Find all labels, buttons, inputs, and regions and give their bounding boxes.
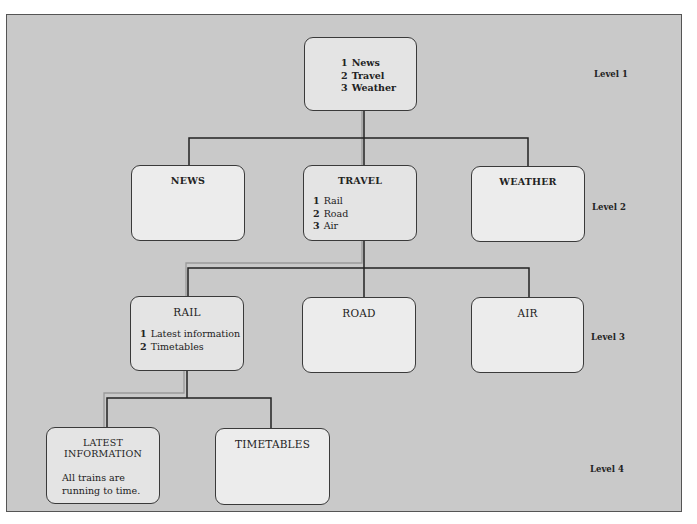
level-label-2: Level 2 bbox=[592, 202, 626, 212]
menu-item: 1Rail bbox=[313, 195, 416, 208]
tree-connectors bbox=[107, 111, 529, 428]
node-title: ROAD bbox=[303, 307, 415, 319]
menu-item: 2Road bbox=[313, 208, 416, 221]
node-latest-information: LATEST INFORMATION All trains are runnin… bbox=[46, 427, 160, 504]
node-weather: WEATHER bbox=[471, 166, 585, 242]
node-timetables: TIMETABLES bbox=[215, 428, 330, 505]
node-root-menu: 1News 2Travel 3Weather bbox=[304, 37, 417, 111]
menu-item: 3Air bbox=[313, 220, 416, 233]
node-title: TRAVEL bbox=[304, 175, 416, 186]
node-rail: RAIL 1Latest information 2Timetables bbox=[130, 296, 244, 371]
node-title: RAIL bbox=[131, 306, 243, 318]
node-title: AIR bbox=[472, 307, 583, 319]
level-label-1: Level 1 bbox=[594, 69, 628, 79]
node-body-text: All trains are running to time. bbox=[62, 472, 162, 497]
node-title: NEWS bbox=[132, 175, 244, 186]
node-travel: TRAVEL 1Rail 2Road 3Air bbox=[303, 165, 417, 241]
node-news: NEWS bbox=[131, 165, 245, 241]
menu-item: 1Latest information bbox=[140, 328, 243, 341]
node-title: WEATHER bbox=[472, 176, 584, 187]
level-label-3: Level 3 bbox=[591, 332, 625, 342]
menu-item: 1News bbox=[341, 57, 416, 70]
node-air: AIR bbox=[471, 297, 584, 373]
level-label-4: Level 4 bbox=[590, 464, 624, 474]
menu-item: 2Timetables bbox=[140, 341, 243, 354]
highlight-path bbox=[104, 111, 362, 428]
menu-item: 3Weather bbox=[341, 82, 416, 95]
node-title: LATEST INFORMATION bbox=[47, 437, 159, 459]
node-title: TIMETABLES bbox=[216, 438, 329, 450]
node-road: ROAD bbox=[302, 297, 416, 373]
menu-item: 2Travel bbox=[341, 70, 416, 83]
